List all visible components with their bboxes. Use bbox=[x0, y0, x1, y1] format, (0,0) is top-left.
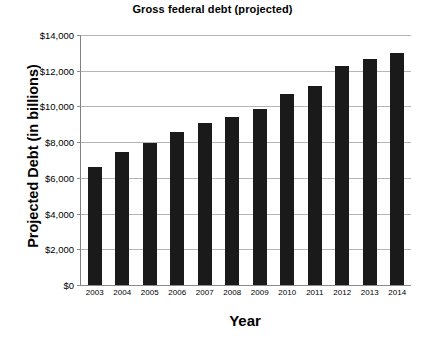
bar-group: 2006 bbox=[164, 35, 192, 285]
bar-group: 2007 bbox=[191, 35, 219, 285]
x-tick-label: 2010 bbox=[278, 288, 296, 297]
y-tick-label: $10,000 bbox=[40, 101, 74, 112]
x-axis-title: Year bbox=[80, 312, 410, 329]
y-tick-label: $0 bbox=[63, 280, 74, 291]
x-tick-label: 2006 bbox=[168, 288, 186, 297]
bar bbox=[253, 109, 267, 285]
x-tick-label: 2003 bbox=[86, 288, 104, 297]
bar bbox=[280, 94, 294, 285]
x-tick-label: 2012 bbox=[333, 288, 351, 297]
bar-group: 2004 bbox=[109, 35, 137, 285]
y-tick-label: $8,000 bbox=[45, 137, 74, 148]
bar bbox=[198, 123, 212, 286]
bar bbox=[115, 152, 129, 285]
x-tick-label: 2014 bbox=[388, 288, 406, 297]
chart-title: Gross federal debt (projected) bbox=[0, 3, 425, 15]
bar bbox=[390, 53, 404, 285]
x-tick-label: 2008 bbox=[223, 288, 241, 297]
bar bbox=[225, 117, 239, 285]
bar-group: 2010 bbox=[274, 35, 302, 285]
y-axis-title: Projected Debt (in billions) bbox=[25, 41, 41, 271]
y-tick-label: $14,000 bbox=[40, 30, 74, 41]
y-tick-mark bbox=[77, 285, 81, 286]
bar-group: 2005 bbox=[136, 35, 164, 285]
y-tick-label: $2,000 bbox=[45, 244, 74, 255]
plot-area: $0$2,000$4,000$6,000$8,000$10,000$12,000… bbox=[80, 35, 410, 285]
bar bbox=[170, 132, 184, 285]
bars-layer: 2003200420052006200720082009201020112012… bbox=[81, 35, 411, 285]
bar-group: 2008 bbox=[219, 35, 247, 285]
x-tick-label: 2011 bbox=[306, 288, 323, 297]
bar bbox=[363, 59, 377, 285]
bar-chart: Gross federal debt (projected) Projected… bbox=[0, 0, 425, 338]
bar bbox=[335, 66, 349, 285]
y-tick-label: $6,000 bbox=[45, 172, 74, 183]
bar-group: 2009 bbox=[246, 35, 274, 285]
bar-group: 2012 bbox=[329, 35, 357, 285]
x-tick-label: 2007 bbox=[196, 288, 214, 297]
x-tick-label: 2009 bbox=[251, 288, 269, 297]
y-tick-label: $12,000 bbox=[40, 65, 74, 76]
x-tick-label: 2013 bbox=[361, 288, 379, 297]
bar-group: 2013 bbox=[356, 35, 384, 285]
bar-group: 2011 bbox=[301, 35, 329, 285]
x-tick-label: 2005 bbox=[141, 288, 159, 297]
bar bbox=[143, 143, 157, 285]
bar-group: 2014 bbox=[384, 35, 412, 285]
bar-group: 2003 bbox=[81, 35, 109, 285]
x-tick-label: 2004 bbox=[113, 288, 131, 297]
bar bbox=[308, 86, 322, 285]
y-tick-label: $4,000 bbox=[45, 208, 74, 219]
gridline bbox=[81, 285, 411, 286]
bar bbox=[88, 167, 102, 285]
